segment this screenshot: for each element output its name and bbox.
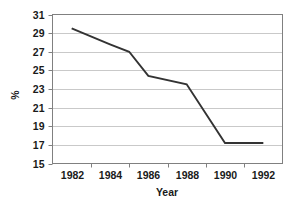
x-axis-title: Year: [156, 186, 178, 198]
y-axis-tick-label: 31: [33, 9, 45, 21]
y-axis-title: %: [9, 90, 21, 100]
y-axis-tick-label: 19: [33, 120, 45, 132]
x-axis-tick-label: 1984: [99, 169, 123, 181]
y-axis-tick-label: 21: [33, 102, 45, 114]
y-axis-tick-labels: 151719212325272931: [33, 9, 45, 170]
y-axis-tick-label: 17: [33, 139, 45, 151]
y-axis-tick-label: 25: [33, 64, 45, 76]
x-axis-tick-label: 1992: [252, 169, 276, 181]
x-axis-tick-label: 1988: [176, 169, 200, 181]
chart-canvas: 151719212325272931 198219841986198819901…: [0, 0, 297, 204]
x-axis-tick-label: 1990: [214, 169, 238, 181]
x-axis-tick-label: 1982: [61, 169, 85, 181]
y-axis-tick-label: 29: [33, 27, 45, 39]
y-axis-tick-label: 15: [33, 158, 45, 170]
y-axis-tick-label: 23: [33, 83, 45, 95]
x-axis-tick-label: 1986: [137, 169, 161, 181]
line-chart: 151719212325272931 198219841986198819901…: [0, 0, 297, 204]
y-axis-tick-label: 27: [33, 46, 45, 58]
